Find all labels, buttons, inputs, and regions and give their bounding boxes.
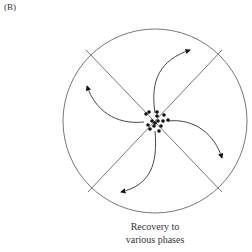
arrow-right [168, 121, 222, 158]
dot-cluster [144, 110, 170, 133]
arrow-left [87, 86, 144, 122]
caption-line-2: various phases [105, 233, 205, 246]
phase-diagram [0, 0, 252, 252]
caption-line-1: Recovery to [105, 220, 205, 233]
caption: Recovery to various phases [105, 220, 205, 246]
arrow-down-left [121, 131, 156, 192]
